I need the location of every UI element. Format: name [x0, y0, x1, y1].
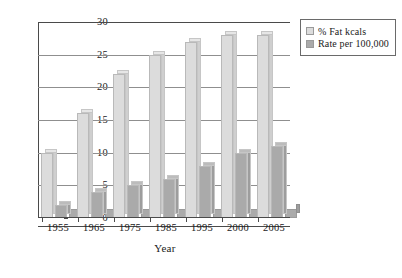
bar-side-face: [175, 175, 179, 214]
bar-front-face: [77, 113, 89, 218]
legend-swatch-icon-1: [306, 40, 314, 48]
x-tick-1955: 1955: [38, 222, 78, 233]
x-tick-mark: [186, 218, 187, 222]
legend-label-0: % Fat kcals: [318, 26, 366, 37]
bar-front-face: [127, 185, 139, 218]
bar-front-face: [221, 35, 233, 218]
x-tick-2005: 2005: [254, 222, 294, 233]
x-tick-mark: [114, 218, 115, 222]
bar-front-face: [113, 74, 125, 218]
legend: % Fat kcals Rate per 100,000: [300, 19, 396, 56]
bar-2000-series2: [235, 153, 247, 218]
x-tick-1965: 1965: [74, 222, 114, 233]
bar-1985-series2: [163, 179, 175, 218]
bar-2000-series1: [221, 35, 233, 218]
base-block-side: [296, 204, 300, 213]
bar-front-face: [149, 55, 161, 218]
x-axis-title: Year: [0, 242, 330, 254]
x-tick-2000: 2000: [218, 222, 258, 233]
x-tick-mark: [150, 218, 151, 222]
legend-item-1: Rate per 100,000: [306, 38, 389, 49]
bar-2005-series2: [271, 146, 283, 218]
plot-area: [38, 22, 290, 218]
bar-front-face: [257, 35, 269, 218]
bar-1965-series2: [91, 192, 103, 218]
bar-side-face: [283, 142, 287, 214]
bar-1975-series1: [113, 74, 125, 218]
bar-front-face: [91, 192, 103, 218]
x-tick-mark: [222, 218, 223, 222]
bar-front-face: [199, 166, 211, 218]
bar-side-face: [247, 149, 251, 214]
bar-front-face: [235, 153, 247, 218]
bar-1975-series2: [127, 185, 139, 218]
bar-front-face: [41, 153, 53, 218]
legend-swatch-icon-0: [306, 27, 314, 35]
bar-1955-series1: [41, 153, 53, 218]
bar-1995-series2: [199, 166, 211, 218]
legend-label-1: Rate per 100,000: [318, 38, 389, 49]
bar-front-face: [163, 179, 175, 218]
x-tick-1975: 1975: [110, 222, 150, 233]
bar-front-face: [185, 42, 197, 218]
x-tick-1985: 1985: [146, 222, 186, 233]
bar-1965-series1: [77, 113, 89, 218]
x-tick-mark: [258, 218, 259, 222]
legend-item-0: % Fat kcals: [306, 26, 389, 37]
bar-front-face: [271, 146, 283, 218]
bar-side-face: [211, 162, 215, 214]
x-tick-mark: [78, 218, 79, 222]
bar-chart: 051015202530 195519651975198519952000200…: [0, 0, 402, 278]
bar-1985-series1: [149, 55, 161, 218]
bar-2005-series1: [257, 35, 269, 218]
x-tick-1995: 1995: [182, 222, 222, 233]
bar-side-face: [139, 181, 143, 214]
x-tick-mark: [42, 218, 43, 222]
bar-1995-series1: [185, 42, 197, 218]
